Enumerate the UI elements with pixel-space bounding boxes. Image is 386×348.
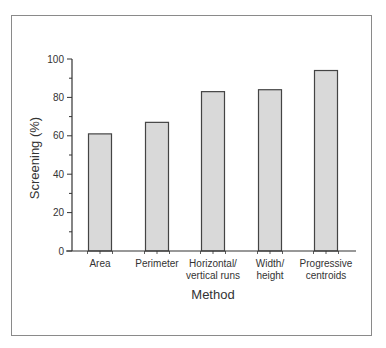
x-category-label: centroids bbox=[306, 270, 347, 281]
bar bbox=[202, 92, 225, 251]
x-category-label: Perimeter bbox=[135, 258, 179, 269]
y-axis-title: Screening (%) bbox=[27, 117, 42, 199]
y-tick-label: 60 bbox=[53, 130, 65, 141]
bars bbox=[89, 71, 338, 251]
x-category-label: Horizontal/ bbox=[189, 258, 237, 269]
y-tick-label: 20 bbox=[53, 207, 65, 218]
y-tick-label: 80 bbox=[53, 92, 65, 103]
x-category-label: Area bbox=[89, 258, 111, 269]
x-category-label: Progressive bbox=[300, 258, 353, 269]
bar bbox=[89, 134, 112, 251]
x-axis: AreaPerimeterHorizontal/vertical runsWid… bbox=[66, 251, 356, 281]
x-category-label: vertical runs bbox=[186, 270, 240, 281]
bar-chart: 020406080100 AreaPerimeterHorizontal/ver… bbox=[0, 0, 386, 348]
x-category-label: height bbox=[256, 270, 283, 281]
bar bbox=[146, 122, 169, 251]
bar bbox=[259, 90, 282, 251]
bar bbox=[315, 71, 338, 251]
y-axis: 020406080100 bbox=[47, 54, 72, 257]
x-category-label: Width/ bbox=[256, 258, 285, 269]
y-tick-label: 100 bbox=[47, 54, 64, 65]
x-axis-title: Method bbox=[191, 287, 234, 302]
y-tick-label: 40 bbox=[53, 169, 65, 180]
y-tick-label: 0 bbox=[58, 246, 64, 257]
